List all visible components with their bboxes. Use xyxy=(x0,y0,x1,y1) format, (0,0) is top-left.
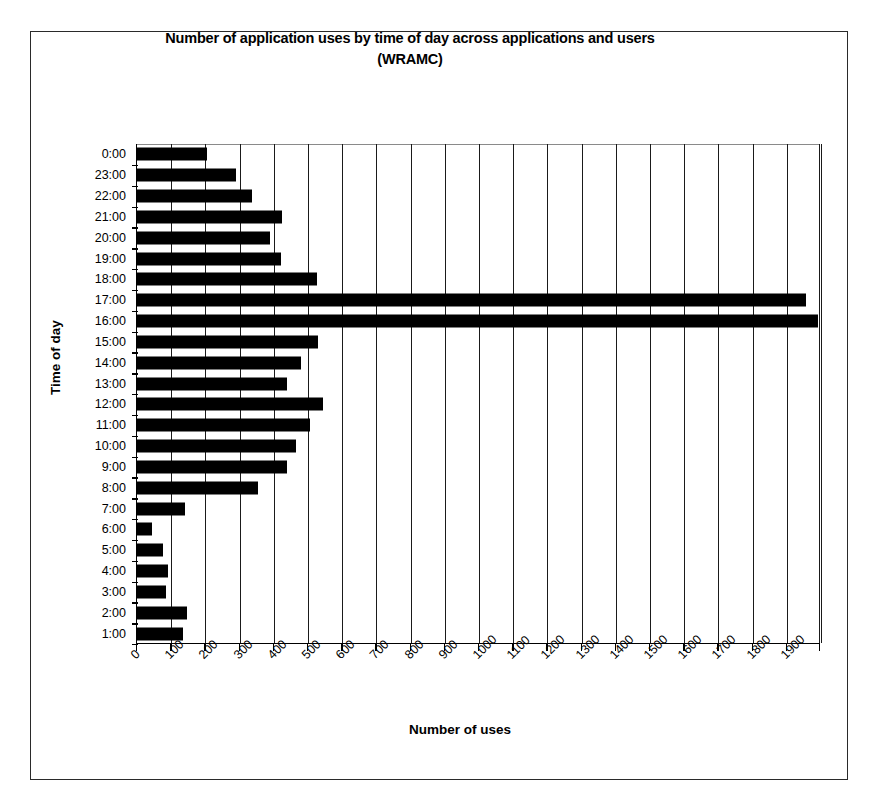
bar-slot xyxy=(137,602,820,623)
bar-slot xyxy=(137,311,820,332)
y-axis-tick-label: 4:00 xyxy=(102,564,126,578)
plot-area xyxy=(136,144,820,644)
y-axis-tick xyxy=(132,457,138,458)
bar-slot xyxy=(137,623,820,644)
bar-slot xyxy=(137,144,820,165)
bar[interactable] xyxy=(137,377,287,390)
y-axis-tick-label: 7:00 xyxy=(102,502,126,516)
y-axis-tick-label: 0:00 xyxy=(102,147,126,161)
gridline xyxy=(821,144,822,643)
bar-slot xyxy=(137,290,820,311)
bar[interactable] xyxy=(137,315,818,328)
y-axis-tick-label: 13:00 xyxy=(95,377,126,391)
bar[interactable] xyxy=(137,585,166,598)
bar-slot xyxy=(137,207,820,228)
bar[interactable] xyxy=(137,606,187,619)
y-axis-tick-label: 16:00 xyxy=(95,314,126,328)
y-axis-tick-label: 17:00 xyxy=(95,293,126,307)
bar[interactable] xyxy=(137,440,296,453)
bar-slot xyxy=(137,352,820,373)
y-axis-tick xyxy=(132,582,138,583)
y-axis-tick-label: 14:00 xyxy=(95,356,126,370)
y-axis-tick-label: 5:00 xyxy=(102,543,126,557)
y-axis-tick-label: 9:00 xyxy=(102,460,126,474)
bar[interactable] xyxy=(137,356,301,369)
x-axis-tick xyxy=(819,644,820,651)
y-axis-tick xyxy=(132,352,138,353)
bar[interactable] xyxy=(137,481,258,494)
y-axis-tick xyxy=(132,165,138,166)
bar-slot xyxy=(137,498,820,519)
bar[interactable] xyxy=(137,190,252,203)
bar-slot xyxy=(137,477,820,498)
bar-slot xyxy=(137,332,820,353)
bar-slot xyxy=(137,540,820,561)
y-axis-tick-label: 1:00 xyxy=(102,627,126,641)
bar-slot xyxy=(137,227,820,248)
bar[interactable] xyxy=(137,169,236,182)
y-axis-tick xyxy=(132,186,138,187)
bar[interactable] xyxy=(137,210,282,223)
y-axis-tick xyxy=(132,394,138,395)
bar-slot xyxy=(137,561,820,582)
bar-slot xyxy=(137,582,820,603)
bar[interactable] xyxy=(137,523,152,536)
y-axis-tick xyxy=(132,436,138,437)
bar[interactable] xyxy=(137,148,207,161)
bar[interactable] xyxy=(137,273,317,286)
y-axis-tick-label: 21:00 xyxy=(95,210,126,224)
y-axis-tick xyxy=(132,498,138,499)
bar-slot xyxy=(137,186,820,207)
y-axis-tick-label: 23:00 xyxy=(95,168,126,182)
bar-series xyxy=(137,144,820,643)
y-axis-tick-label: 18:00 xyxy=(95,272,126,286)
chart-title-line-2: (WRAMC) xyxy=(60,49,760,70)
y-axis-tick-label: 10:00 xyxy=(95,439,126,453)
y-axis-tick-label: 11:00 xyxy=(96,418,126,432)
y-axis-tick-label: 3:00 xyxy=(102,585,126,599)
bar[interactable] xyxy=(137,544,163,557)
y-axis-tick xyxy=(132,477,138,478)
y-axis-tick-label: 2:00 xyxy=(102,606,126,620)
y-axis-tick-label: 20:00 xyxy=(95,231,126,245)
bar-slot xyxy=(137,248,820,269)
bar[interactable] xyxy=(137,460,287,473)
y-axis-tick-labels: 0:0023:0022:0021:0020:0019:0018:0017:001… xyxy=(60,144,130,644)
y-axis-tick xyxy=(132,519,138,520)
bar-slot xyxy=(137,394,820,415)
bar-slot xyxy=(137,457,820,478)
y-axis-tick-label: 6:00 xyxy=(102,522,126,536)
bar[interactable] xyxy=(137,419,310,432)
bar[interactable] xyxy=(137,231,270,244)
bar[interactable] xyxy=(137,398,323,411)
chart-title: Number of application uses by time of da… xyxy=(60,28,760,70)
bar[interactable] xyxy=(137,335,318,348)
y-axis-tick xyxy=(132,227,138,228)
y-axis-tick xyxy=(132,561,138,562)
bar-slot xyxy=(137,373,820,394)
y-axis-tick xyxy=(132,623,138,624)
bar-slot xyxy=(137,415,820,436)
y-axis-tick xyxy=(132,332,138,333)
chart-title-line-1: Number of application uses by time of da… xyxy=(165,30,654,46)
y-axis-tick xyxy=(132,540,138,541)
bar-slot xyxy=(137,519,820,540)
x-axis-title: Number of uses xyxy=(330,722,590,737)
y-axis-tick-label: 22:00 xyxy=(95,189,126,203)
y-axis-tick xyxy=(132,602,138,603)
bar[interactable] xyxy=(137,294,806,307)
y-axis-tick xyxy=(132,248,138,249)
y-axis-tick-label: 8:00 xyxy=(102,481,126,495)
bar-slot xyxy=(137,436,820,457)
y-axis-tick-label: 15:00 xyxy=(95,335,126,349)
y-axis-ticks xyxy=(137,144,138,643)
y-axis-tick xyxy=(132,373,138,374)
bar-slot xyxy=(137,269,820,290)
y-axis-tick xyxy=(132,415,138,416)
y-axis-tick xyxy=(132,290,138,291)
bar[interactable] xyxy=(137,502,185,515)
bar[interactable] xyxy=(137,252,281,265)
bar[interactable] xyxy=(137,565,168,578)
y-axis-tick xyxy=(132,311,138,312)
y-axis-tick-label: 12:00 xyxy=(95,397,126,411)
